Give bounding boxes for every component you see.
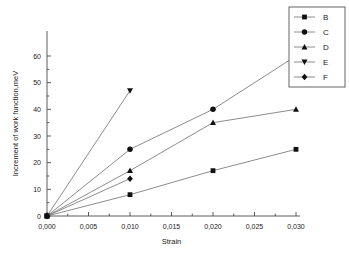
data-point-b-1 [128, 192, 133, 197]
series-e [44, 88, 133, 219]
legend-label: F [323, 73, 328, 82]
y-tick-label: 0 [37, 213, 41, 220]
data-point-b-2 [211, 168, 216, 173]
data-point-c-2 [210, 107, 216, 113]
data-point-b-3 [294, 147, 299, 152]
y-tick-label: 20 [33, 159, 41, 166]
y-axis-title: Increment of work function,meV [11, 71, 20, 176]
y-tick-label: 60 [33, 53, 41, 60]
legend-label: D [323, 43, 329, 52]
data-point-c-1 [127, 147, 133, 153]
series-line-c [47, 56, 296, 216]
legend-label: C [323, 28, 329, 37]
x-tick-label: 0,030 [287, 223, 305, 230]
data-point-e-1 [127, 88, 133, 94]
line-chart: 01020304050600,0000,0050,0100,0150,0200,… [0, 0, 349, 259]
x-axis-title: Strain [162, 237, 182, 246]
y-tick-label: 30 [33, 133, 41, 140]
x-tick-label: 0,010 [121, 223, 139, 230]
y-axis-ticks: 0102030405060 [33, 53, 51, 220]
data-point-d-1 [127, 168, 133, 174]
legend-marker-b [302, 15, 307, 20]
legend-label: E [323, 58, 328, 67]
x-tick-label: 0,005 [80, 223, 98, 230]
data-point-f-1 [127, 175, 133, 181]
x-tick-label: 0,020 [204, 223, 222, 230]
series-c [44, 53, 299, 219]
x-tick-label: 0,025 [246, 223, 264, 230]
y-tick-label: 50 [33, 79, 41, 86]
x-tick-label: 0,000 [38, 223, 56, 230]
series-line-d [47, 109, 296, 216]
x-axis-ticks: 0,0000,0050,0100,0150,0200,0250,030 [38, 212, 305, 230]
series-b [45, 147, 299, 218]
chart-container: 01020304050600,0000,0050,0100,0150,0200,… [0, 0, 349, 259]
legend: BCDEF [289, 7, 345, 87]
x-tick-label: 0,015 [163, 223, 181, 230]
legend-label: B [323, 13, 328, 22]
axes [47, 31, 300, 216]
data-point-d-3 [293, 106, 299, 112]
y-tick-label: 10 [33, 186, 41, 193]
y-tick-label: 40 [33, 106, 41, 113]
legend-marker-c [302, 29, 308, 35]
